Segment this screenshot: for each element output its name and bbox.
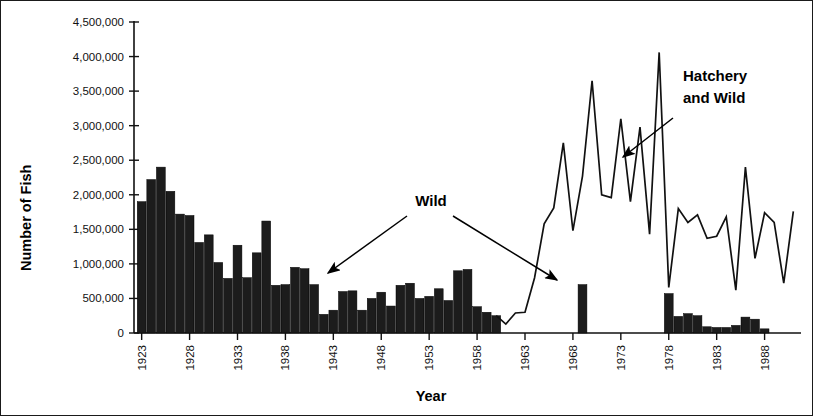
chart-frame: 0500,0001,000,0001,500,0002,000,0002,500… bbox=[0, 0, 813, 416]
bar bbox=[674, 316, 683, 333]
bar bbox=[147, 180, 156, 333]
bar bbox=[482, 312, 491, 333]
bar bbox=[693, 316, 702, 333]
x-axis: 1923192819331938194319481953195819631968… bbox=[134, 333, 801, 371]
bar bbox=[195, 242, 204, 333]
bar bbox=[454, 271, 463, 333]
wild-bars-series bbox=[137, 167, 769, 333]
bar bbox=[722, 327, 731, 333]
y-tick-label: 0 bbox=[118, 327, 124, 339]
hatchery-and-wild-line-series bbox=[496, 52, 793, 324]
bar bbox=[434, 289, 443, 333]
x-tick-label: 1963 bbox=[519, 345, 531, 371]
bar bbox=[348, 291, 357, 333]
bar bbox=[319, 314, 328, 333]
bar bbox=[137, 202, 146, 333]
y-tick-label: 3,000,000 bbox=[73, 120, 124, 132]
annotation-leader-wild-left bbox=[328, 216, 407, 273]
bar bbox=[214, 263, 223, 333]
bar bbox=[703, 327, 712, 333]
x-tick-label: 1958 bbox=[471, 345, 483, 371]
bar bbox=[271, 285, 280, 333]
x-tick-label: 1973 bbox=[615, 345, 627, 371]
bar bbox=[156, 167, 165, 333]
bar bbox=[339, 292, 348, 333]
y-tick-label: 1,500,000 bbox=[73, 223, 124, 235]
bar bbox=[262, 221, 271, 333]
bar bbox=[760, 329, 769, 333]
bar bbox=[252, 253, 261, 333]
bar bbox=[741, 317, 750, 333]
x-tick-label: 1978 bbox=[663, 345, 675, 371]
bar bbox=[185, 216, 194, 333]
bar bbox=[578, 285, 587, 333]
y-axis-title: Number of Fish bbox=[18, 165, 34, 271]
bar bbox=[329, 310, 338, 333]
y-tick-label: 4,500,000 bbox=[73, 16, 124, 28]
annotation-hatchery-line2: and Wild bbox=[683, 89, 745, 106]
y-tick-label: 2,500,000 bbox=[73, 154, 124, 166]
bar bbox=[396, 285, 405, 333]
x-tick-label: 1953 bbox=[423, 345, 435, 371]
x-tick-label: 1938 bbox=[279, 345, 291, 371]
bar bbox=[204, 235, 213, 333]
fish-population-chart: 0500,0001,000,0001,500,0002,000,0002,500… bbox=[1, 1, 813, 416]
annotation-hatchery-line1: Hatchery bbox=[683, 67, 748, 84]
bar bbox=[664, 294, 673, 333]
x-tick-label: 1943 bbox=[327, 345, 339, 371]
bar bbox=[300, 269, 309, 333]
bar bbox=[425, 296, 434, 333]
hatchery-wild-polyline bbox=[496, 52, 793, 324]
x-axis-title: Year bbox=[416, 388, 447, 404]
y-tick-label: 500,000 bbox=[82, 292, 124, 304]
bar bbox=[176, 214, 185, 333]
bar bbox=[358, 310, 367, 333]
bar bbox=[367, 298, 376, 333]
y-tick-label: 2,000,000 bbox=[73, 189, 124, 201]
bar bbox=[243, 278, 252, 333]
annotation-leader-hatchery bbox=[623, 118, 673, 157]
bar bbox=[224, 278, 233, 333]
x-tick-label: 1948 bbox=[375, 345, 387, 371]
bar bbox=[463, 269, 472, 333]
x-tick-label: 1968 bbox=[567, 345, 579, 371]
bar bbox=[386, 306, 395, 333]
x-tick-label: 1923 bbox=[136, 345, 148, 371]
x-tick-label: 1988 bbox=[759, 345, 771, 371]
bar bbox=[310, 285, 319, 333]
bar bbox=[377, 292, 386, 333]
bar bbox=[473, 307, 482, 333]
chart-canvas: 0500,0001,000,0001,500,0002,000,0002,500… bbox=[1, 1, 813, 416]
bar bbox=[166, 191, 175, 333]
bar bbox=[751, 319, 760, 333]
bar bbox=[444, 301, 453, 333]
y-tick-label: 3,500,000 bbox=[73, 85, 124, 97]
bar bbox=[291, 267, 300, 333]
bar bbox=[406, 283, 415, 333]
x-tick-label: 1928 bbox=[184, 345, 196, 371]
annotation-wild: Wild bbox=[415, 192, 447, 209]
bar bbox=[281, 285, 290, 333]
y-axis: 0500,0001,000,0001,500,0002,000,0002,500… bbox=[73, 16, 139, 339]
bar bbox=[731, 325, 740, 333]
bar bbox=[415, 298, 424, 333]
bar bbox=[684, 314, 693, 333]
bar bbox=[712, 327, 721, 333]
y-tick-label: 1,000,000 bbox=[73, 258, 124, 270]
x-tick-label: 1933 bbox=[232, 345, 244, 371]
y-tick-label: 4,000,000 bbox=[73, 51, 124, 63]
annotations-layer bbox=[328, 118, 673, 280]
x-tick-label: 1983 bbox=[711, 345, 723, 371]
bar bbox=[233, 245, 242, 333]
